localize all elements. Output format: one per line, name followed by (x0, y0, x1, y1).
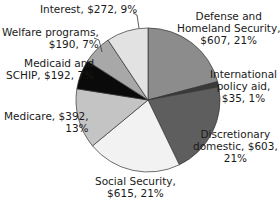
label-medicare: Medicare, $392,13% (4, 110, 89, 134)
label-social-security: Social Security,$615, 21% (95, 175, 176, 199)
label-discretionary-domestic: Discretionarydomestic, $603,21% (193, 128, 278, 164)
label-interest: Interest, $272, 9% (40, 3, 137, 15)
label-medicaid: Medicaid andSCHIP, $192, 7% (6, 57, 94, 81)
label-welfare: Welfare programs,$190, 7% (2, 26, 99, 50)
leader-line-interest (133, 13, 139, 28)
label-international-policy-aid: Internationalpolicy aid,$35, 1% (210, 68, 277, 104)
label-defense: Defense andHomeland Security,$607, 21% (177, 10, 280, 46)
